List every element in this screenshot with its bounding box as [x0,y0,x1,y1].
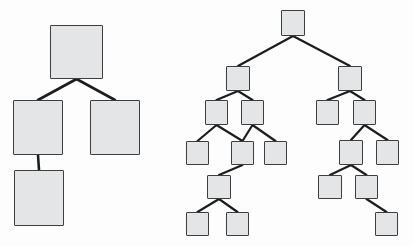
right-tree-node-right-branch[interactable] [338,66,362,91]
right-tree-node-la-5[interactable] [264,141,287,165]
right-tree-node-la-1[interactable] [205,100,228,125]
right-tree-node-la-7[interactable] [186,212,209,236]
right-tree-node-rb-2[interactable] [353,100,376,125]
right-tree-node-la-4[interactable] [231,141,254,165]
right-tree-node-rb-7[interactable] [375,212,398,236]
right-tree-node-left-branch[interactable] [226,66,250,91]
right-tree-node-root[interactable] [281,10,305,36]
node-layer [0,0,413,246]
right-tree [0,0,413,246]
right-tree-node-rb-6[interactable] [355,175,378,199]
right-tree-node-rb-1[interactable] [316,100,339,125]
right-tree-node-la-6[interactable] [207,175,231,199]
diagram-canvas [0,0,413,246]
right-tree-node-la-2[interactable] [241,100,264,125]
right-tree-node-la-3[interactable] [186,141,209,165]
right-tree-node-rb-3[interactable] [339,140,363,165]
right-tree-node-la-8[interactable] [226,212,249,236]
right-tree-node-rb-4[interactable] [376,140,399,165]
right-tree-node-rb-5[interactable] [318,175,342,199]
